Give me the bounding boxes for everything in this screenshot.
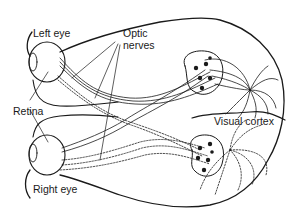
right-eye-bracket — [26, 170, 31, 198]
visual-cortex-label: Visual cortex — [214, 116, 274, 127]
optic-nerves-label-line2: nerves — [123, 40, 155, 51]
optic-pointer-1 — [72, 42, 115, 78]
optic-nerve-left-1 — [60, 58, 210, 98]
optic-nerves-label-line1: Optic — [123, 28, 148, 39]
optic-nerve-right-1 — [62, 70, 205, 148]
upper-lgn-neurons — [194, 56, 212, 90]
optic-pointer-2 — [95, 44, 118, 98]
right-eye-lens — [29, 144, 37, 162]
inner-contour-lower — [33, 115, 118, 137]
left-eye-lens — [29, 53, 37, 71]
visual-pathway-diagram: Left eye Optic nerves Retina Visual cort… — [0, 0, 287, 221]
left-eye-label: Left eye — [33, 28, 70, 39]
retina-label: Retina — [13, 106, 43, 117]
retina-pointer-1 — [30, 72, 48, 100]
dashed-path-3 — [62, 140, 205, 160]
dashed-path-4 — [62, 146, 208, 165]
right-eyeball — [29, 135, 65, 175]
dashed-path-2 — [58, 80, 202, 156]
dashed-path-5 — [60, 153, 210, 170]
dashed-path-1 — [58, 76, 200, 150]
right-eye-label: Right eye — [33, 184, 77, 195]
